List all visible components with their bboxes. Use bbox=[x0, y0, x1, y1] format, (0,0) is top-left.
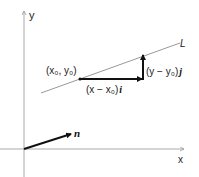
point-label: (x₀, y₀) bbox=[46, 65, 77, 76]
vertical-vector-label: (y − y₀)j bbox=[146, 66, 182, 77]
normal-vector bbox=[24, 134, 71, 149]
line-l-label: L bbox=[180, 38, 186, 49]
normal-vector-label: n bbox=[74, 127, 80, 139]
horizontal-vector-label: (x − x₀)i bbox=[86, 84, 122, 95]
vector-diagram: y x L (x₀, y₀) (x − x₀)i (y − y₀)j n bbox=[0, 0, 199, 177]
x-axis-label: x bbox=[178, 154, 183, 165]
y-axis-label: y bbox=[29, 9, 35, 21]
